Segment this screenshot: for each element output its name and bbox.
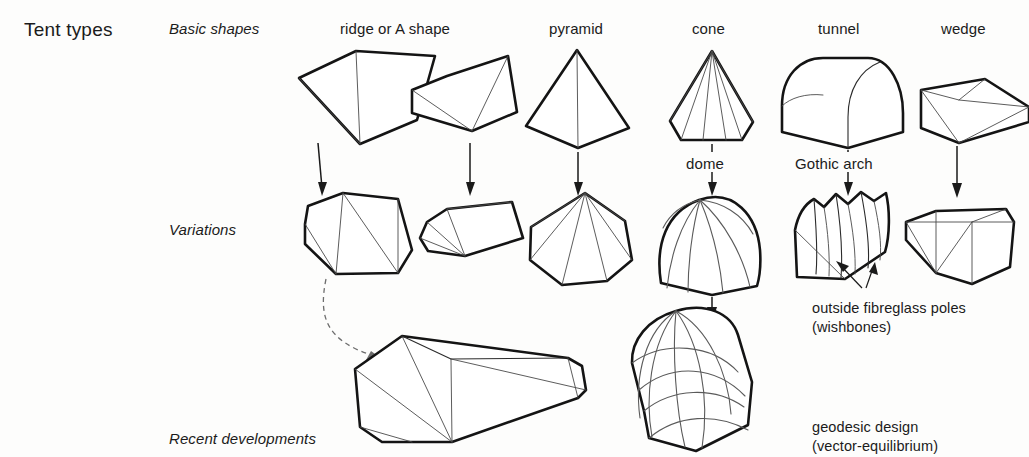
arrow-ridge-down	[318, 143, 327, 196]
column-label-pyramid: pyramid	[549, 20, 603, 39]
shape-pyramid-variation	[530, 193, 632, 285]
arrow-ridge-to-recent	[323, 279, 382, 360]
shape-dome	[659, 197, 760, 295]
annotation-wishbones: outside fibreglass poles (wishbones)	[812, 299, 966, 337]
shape-wedge-variation	[906, 209, 1014, 284]
arrow-pyramid-down	[574, 152, 583, 196]
column-label-tunnel: tunnel	[818, 20, 859, 39]
page-title: Tent types	[24, 18, 113, 42]
shape-geodesic-dome	[632, 308, 752, 451]
shape-ridge-low-variation	[420, 202, 523, 256]
arrow-ridge-low-down	[466, 143, 475, 196]
shape-cone-basic	[670, 51, 753, 140]
row-label-recent-developments: Recent developments	[169, 430, 316, 449]
annotation-geodesic: geodesic design (vector-equilibrium)	[812, 418, 938, 456]
shape-wedge-basic	[921, 79, 1029, 143]
column-label-ridge: ridge or A shape	[340, 20, 450, 39]
column-label-wedge: wedge	[941, 20, 986, 39]
column-label-cone: cone	[692, 20, 725, 39]
row-label-variations: Variations	[169, 221, 236, 240]
mid-label-gothic-arch: Gothic arch	[795, 155, 873, 174]
shape-ridge-variation	[305, 193, 412, 274]
shape-pyramid-basic	[526, 50, 629, 148]
shape-tunnel-basic	[782, 58, 903, 148]
row-label-basic-shapes: Basic shapes	[169, 20, 259, 39]
arrow-wedge-down	[952, 146, 962, 198]
mid-label-dome: dome	[686, 155, 724, 174]
shape-large-ridge-recent	[355, 336, 586, 442]
tent-types-diagram: Tent types Basic shapes Variations Recen…	[0, 0, 1029, 457]
diagram-canvas	[0, 0, 1029, 457]
